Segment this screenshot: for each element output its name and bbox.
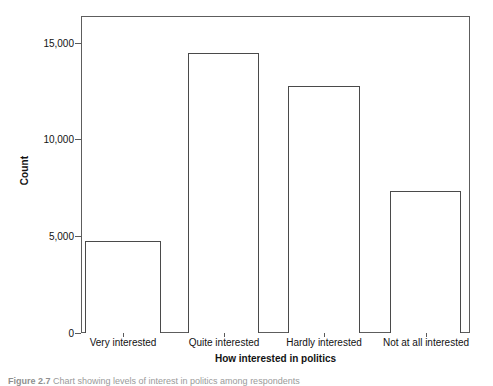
bar-quite-interested[interactable] <box>188 53 259 333</box>
y-tick-label-15000: 15,000 <box>16 38 74 49</box>
bars-layer <box>81 16 470 333</box>
x-axis-title: How interested in politics <box>81 353 470 364</box>
bar-hardly-interested[interactable] <box>288 86 360 333</box>
figure-caption-prefix: Figure 2.7 <box>8 376 51 386</box>
y-tick-label-5000: 5,000 <box>16 231 74 242</box>
y-tick-label-10000: 10,000 <box>16 134 74 145</box>
y-tick-mark-0 <box>75 333 81 334</box>
y-axis-ticks: 15,000 10,000 5,000 0 <box>12 0 74 386</box>
figure-caption-text: Chart showing levels of interest in poli… <box>53 376 300 386</box>
figure-container: Count 15,000 10,000 5,000 0 Very interes… <box>0 0 493 386</box>
figure-caption: Figure 2.7 Chart showing levels of inter… <box>8 376 478 386</box>
bar-not-at-all-interested[interactable] <box>390 191 461 333</box>
bar-very-interested[interactable] <box>85 241 161 333</box>
x-tick-label-not-at-all-interested: Not at all interested <box>360 337 492 348</box>
